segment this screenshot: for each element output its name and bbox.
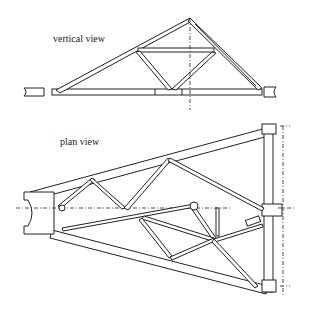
vertical-view-truss — [24, 18, 276, 110]
truss-drawing — [0, 0, 310, 312]
truss-diagram: vertical view plan view — [0, 0, 310, 312]
plan-view-truss — [16, 124, 294, 296]
